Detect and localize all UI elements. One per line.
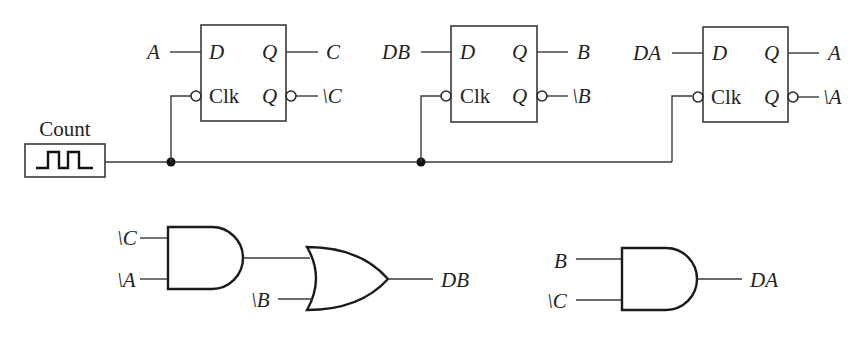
ff-a-qbar-label: \A	[823, 85, 842, 109]
ff-b-qbar-bubble	[537, 91, 547, 101]
count-label: Count	[39, 117, 91, 141]
and2-input1-label: B	[554, 249, 567, 273]
or-gate-1: \B DB	[251, 247, 469, 312]
flip-flop-c: A D Q Clk Q C \C	[145, 25, 343, 121]
flip-flop-a: DA D Q Clk Q A \A	[632, 27, 842, 122]
ff-b-qbar-pin: Q	[512, 84, 527, 108]
ff-c-qbar-bubble	[286, 91, 296, 101]
ff-a-qbar-bubble	[788, 92, 798, 102]
and-gate-1-symbol	[168, 227, 243, 289]
and1-input2-label: \A	[117, 268, 136, 292]
ff-c-qbar-label: \C	[322, 84, 343, 108]
ff-b-clk-pin: Clk	[460, 84, 491, 108]
ff-c-clk-pin: Clk	[209, 84, 240, 108]
ff-c-q-pin: Q	[262, 40, 277, 64]
ff-b-clk-bubble	[441, 91, 451, 101]
ff-a-clk-pin: Clk	[711, 85, 742, 109]
ff-a-q-label: A	[826, 41, 841, 65]
ff-a-qbar-pin: Q	[764, 85, 779, 109]
ff-c-qbar-pin: Q	[262, 84, 277, 108]
or1-input2-label: \B	[251, 288, 270, 312]
ff-b-qbar-label: \B	[572, 84, 591, 108]
ff-c-q-label: C	[326, 40, 341, 64]
ff-b-input-label: DB	[381, 40, 410, 64]
ff-c-input-label: A	[145, 40, 160, 64]
and2-input2-label: \C	[547, 289, 568, 313]
ff-b-q-label: B	[577, 40, 590, 64]
clk-wire-ff-c	[171, 96, 191, 162]
and1-input1-label: \C	[117, 226, 138, 250]
logic-circuit-diagram: Count A D Q Clk Q C \C DB D Q Clk	[0, 0, 861, 338]
and-gate-2-symbol	[622, 248, 697, 310]
ff-a-input-label: DA	[632, 41, 661, 65]
flip-flop-b: DB D Q Clk Q B \B	[381, 26, 591, 122]
ff-c-clk-bubble	[191, 91, 201, 101]
clock-bus	[105, 96, 692, 167]
or-gate-1-symbol	[307, 247, 388, 310]
ff-a-d-pin: D	[711, 41, 727, 65]
ff-b-q-pin: Q	[512, 40, 527, 64]
count-box	[25, 144, 105, 177]
clk-wire-ff-a	[672, 96, 692, 162]
and-gate-1: \C \A	[117, 226, 310, 292]
ff-a-clk-bubble	[693, 92, 703, 102]
ff-b-d-pin: D	[459, 40, 475, 64]
ff-c-d-pin: D	[208, 40, 224, 64]
ff-a-q-pin: Q	[764, 41, 779, 65]
count-clock-source: Count	[25, 117, 105, 177]
clk-wire-ff-b	[421, 96, 441, 162]
or1-output-label: DB	[440, 268, 469, 292]
and-gate-2: B \C DA	[547, 248, 778, 313]
and2-output-label: DA	[749, 268, 778, 292]
